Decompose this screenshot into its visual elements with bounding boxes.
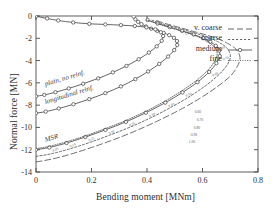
series-marker bbox=[166, 55, 169, 58]
series-marker bbox=[72, 103, 75, 106]
series-marker bbox=[125, 64, 128, 67]
series-marker bbox=[158, 62, 161, 65]
series-marker bbox=[34, 111, 37, 114]
series-marker bbox=[137, 58, 140, 61]
series-marker bbox=[88, 97, 91, 100]
series-marker bbox=[140, 22, 143, 25]
chart-figure: 00.20.40.60.8 -14-12-10-8-6-4-20 0.050.1… bbox=[0, 0, 275, 210]
data-point-label: 1.00 bbox=[189, 140, 195, 144]
x-tick-label: 0.4 bbox=[142, 176, 152, 185]
x-tick-label: 0.8 bbox=[253, 176, 263, 185]
legend-label: coarse bbox=[202, 33, 223, 42]
y-tick-label: -10 bbox=[21, 123, 32, 132]
series-marker bbox=[104, 23, 107, 26]
legend-label: v. coarse bbox=[194, 23, 222, 32]
data-point-label: 0.80 bbox=[194, 126, 200, 130]
data-point-label: 0.60 bbox=[195, 110, 201, 114]
series-marker bbox=[172, 48, 175, 51]
series-marker bbox=[104, 91, 107, 94]
x-axis-title: Bending moment [MNm] bbox=[96, 192, 195, 202]
data-point-label: 0.90 bbox=[191, 133, 197, 137]
series-marker bbox=[155, 45, 158, 48]
series-marker bbox=[147, 51, 150, 54]
x-tick-label: 0 bbox=[34, 176, 38, 185]
series-marker bbox=[160, 39, 163, 42]
series-marker bbox=[176, 43, 179, 46]
series-marker bbox=[111, 71, 114, 74]
y-tick-label: -14 bbox=[21, 168, 32, 177]
legend-label: medium bbox=[196, 44, 223, 53]
interaction-diagram-plot: 00.20.40.60.8 -14-12-10-8-6-4-20 0.050.1… bbox=[0, 0, 275, 210]
y-tick-label: -4 bbox=[25, 57, 32, 66]
series-marker bbox=[57, 19, 60, 22]
series-marker bbox=[43, 93, 46, 96]
series-marker bbox=[44, 110, 47, 113]
y-tick-label: -8 bbox=[25, 101, 32, 110]
series-marker bbox=[34, 95, 37, 98]
series-marker bbox=[168, 33, 171, 36]
series-marker bbox=[88, 22, 91, 25]
series-marker bbox=[134, 77, 137, 80]
series-marker bbox=[133, 24, 136, 27]
series-marker bbox=[159, 31, 162, 34]
y-tick-label: 0 bbox=[28, 12, 32, 21]
series-marker bbox=[132, 15, 135, 18]
series-marker bbox=[71, 21, 74, 24]
series-marker bbox=[34, 15, 37, 18]
series-marker bbox=[45, 17, 48, 20]
series-marker bbox=[96, 77, 99, 80]
legend-label: fine bbox=[210, 54, 223, 63]
series-marker bbox=[154, 28, 157, 31]
series-marker bbox=[57, 107, 60, 110]
series-marker bbox=[119, 23, 122, 26]
data-point-label: 0.70 bbox=[197, 118, 203, 122]
series-marker bbox=[146, 70, 149, 73]
y-axis-title: Normal force [MN] bbox=[9, 73, 19, 150]
series-marker bbox=[119, 85, 122, 88]
series-marker bbox=[175, 39, 178, 42]
y-tick-label: -2 bbox=[25, 34, 32, 43]
y-tick-label: -6 bbox=[25, 79, 32, 88]
x-tick-label: 0.2 bbox=[87, 176, 97, 185]
series-marker bbox=[145, 26, 148, 29]
series-marker bbox=[172, 36, 175, 39]
y-tick-label: -12 bbox=[21, 146, 32, 155]
x-tick-label: 0.6 bbox=[198, 176, 208, 185]
series-marker bbox=[161, 34, 164, 37]
legend-marker-sample bbox=[238, 48, 241, 51]
